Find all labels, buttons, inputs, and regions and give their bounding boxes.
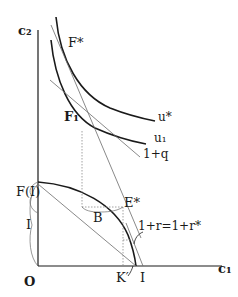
diagram-canvas (0, 0, 238, 297)
curve-1-plus-q-label: 1+q (143, 148, 168, 160)
origin-label: O (24, 275, 35, 288)
pointer-1-plus-r (134, 232, 143, 244)
curve-1-plus-r-label: 1+r=1+r* (138, 220, 201, 232)
bracket-f-of-i-label: F(I) (16, 185, 40, 198)
point-b-label: B (93, 211, 103, 224)
point-f-star-label: F* (68, 36, 84, 49)
curve-u1-label: u₁ (154, 132, 167, 144)
bracket-i-vertical-label: I (26, 218, 31, 231)
point-k-prime-label: K′ (116, 271, 129, 284)
budget-line (38, 184, 136, 266)
point-f1-label: F₁ (64, 110, 79, 123)
x-axis-label: c₁ (218, 262, 232, 275)
curve-u-star-label: u* (158, 111, 172, 123)
y-axis-label: c₂ (18, 24, 32, 37)
point-e-star-label: E* (124, 196, 140, 209)
point-i-axis-label: I (140, 271, 145, 284)
